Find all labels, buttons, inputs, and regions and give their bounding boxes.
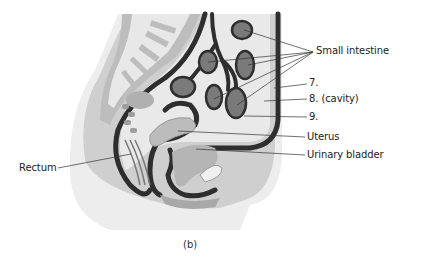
pelvis-sagittal-diagram — [0, 0, 435, 263]
label-uterus: Uterus — [307, 131, 339, 143]
label-small-intestine: Small intestine — [316, 45, 389, 57]
label-9: 9. — [309, 111, 318, 123]
label-rectum: Rectum — [19, 162, 57, 174]
figure-caption: (b) — [183, 239, 197, 250]
label-urinary-bladder: Urinary bladder — [307, 149, 384, 161]
label-7: 7. — [309, 77, 318, 89]
label-8-cavity: 8. (cavity) — [309, 93, 359, 105]
